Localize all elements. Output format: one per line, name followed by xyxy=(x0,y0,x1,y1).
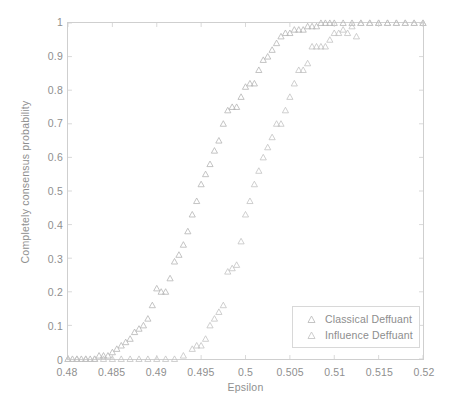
data-point xyxy=(393,20,399,26)
data-point xyxy=(163,356,169,362)
data-point xyxy=(291,80,297,86)
y-axis-tick-label: 1 xyxy=(19,17,63,28)
data-point xyxy=(171,258,177,264)
data-point xyxy=(305,60,311,66)
data-point xyxy=(340,27,346,33)
data-point xyxy=(393,20,399,26)
data-point xyxy=(171,356,177,362)
data-point xyxy=(176,252,182,258)
legend-entry-influence-deffuant[interactable]: Influence Deffuant xyxy=(293,327,419,343)
data-point xyxy=(136,356,142,362)
x-axis-tick-label: 0.495 xyxy=(187,367,214,378)
data-point xyxy=(411,20,417,26)
data-point xyxy=(145,316,151,322)
data-point xyxy=(256,67,262,73)
data-point xyxy=(234,262,240,268)
data-point xyxy=(180,353,186,359)
y-axis-tick-label: 0.1 xyxy=(19,321,63,332)
y-axis-tick-label: 0.2 xyxy=(19,287,63,298)
data-point xyxy=(367,20,373,26)
data-point xyxy=(145,356,151,362)
y-axis-tick-label: 0.9 xyxy=(19,51,63,62)
data-point xyxy=(216,309,222,315)
data-point xyxy=(402,20,408,26)
y-axis-tick-label: 0 xyxy=(19,355,63,366)
x-axis-tick-label: 0.505 xyxy=(276,367,303,378)
data-point xyxy=(238,238,244,244)
data-point xyxy=(167,275,173,281)
data-point xyxy=(194,198,200,204)
data-point xyxy=(207,322,213,328)
data-point xyxy=(265,54,271,60)
data-point xyxy=(140,322,146,328)
data-point xyxy=(242,211,248,217)
figure-canvas: 00.10.20.30.40.50.60.70.80.91 Completely… xyxy=(0,0,455,415)
data-point xyxy=(247,198,253,204)
data-point xyxy=(216,138,222,144)
data-point xyxy=(202,336,208,342)
data-point xyxy=(251,181,257,187)
x-axis-tick-label: 0.51 xyxy=(324,367,345,378)
data-point xyxy=(211,316,217,322)
data-point xyxy=(149,302,155,308)
data-point xyxy=(273,40,279,46)
legend-entry-classical-deffuant[interactable]: Classical Deffuant xyxy=(293,311,419,327)
data-point xyxy=(402,20,408,26)
triangle-marker-icon xyxy=(297,312,325,326)
data-point xyxy=(358,20,364,26)
data-point xyxy=(384,20,390,26)
data-point xyxy=(154,285,160,291)
data-point xyxy=(260,154,266,160)
y-axis-title: Completely consensus probability xyxy=(19,77,31,287)
data-point xyxy=(211,148,217,154)
data-point xyxy=(340,20,346,26)
data-point xyxy=(207,161,213,167)
x-axis-tick-label: 0.485 xyxy=(98,367,125,378)
data-point xyxy=(189,211,195,217)
chart-legend: Classical Deffuant Influence Deffuant xyxy=(292,306,420,348)
x-axis-tick-label: 0.49 xyxy=(146,367,167,378)
x-axis-tick-layer: 0.480.4850.490.4950.50.5050.510.5150.52 xyxy=(67,365,424,379)
data-point xyxy=(238,94,244,100)
x-axis-tick-label: 0.5 xyxy=(238,367,253,378)
data-point xyxy=(256,168,262,174)
data-point xyxy=(185,228,191,234)
legend-label: Classical Deffuant xyxy=(325,313,412,325)
data-point xyxy=(358,20,364,26)
data-point xyxy=(269,134,275,140)
data-point xyxy=(202,171,208,177)
data-point xyxy=(198,181,204,187)
data-point xyxy=(220,121,226,127)
data-point xyxy=(127,336,133,342)
x-axis-title: Epsilon xyxy=(67,381,424,393)
x-axis-tick-label: 0.48 xyxy=(56,367,77,378)
data-point xyxy=(118,356,124,362)
data-point xyxy=(180,242,186,248)
data-point xyxy=(282,107,288,113)
x-axis-tick-label: 0.515 xyxy=(366,367,393,378)
data-point xyxy=(265,144,271,150)
data-point xyxy=(287,94,293,100)
data-point xyxy=(327,37,333,43)
data-point xyxy=(411,20,417,26)
data-point xyxy=(220,302,226,308)
data-point xyxy=(269,47,275,53)
data-point xyxy=(127,356,133,362)
legend-label: Influence Deffuant xyxy=(325,329,413,341)
data-point xyxy=(384,20,390,26)
data-point xyxy=(353,33,359,39)
triangle-marker-icon xyxy=(297,328,325,342)
x-axis-tick-label: 0.52 xyxy=(413,367,434,378)
data-point xyxy=(367,20,373,26)
